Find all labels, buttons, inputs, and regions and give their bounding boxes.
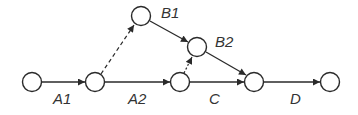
edge-dummy-n1-n2 <box>101 25 134 74</box>
node-n1 <box>86 73 105 92</box>
node-n3 <box>171 73 190 92</box>
edge-b2 <box>206 52 246 75</box>
label-d: D <box>290 91 301 106</box>
label-c: C <box>209 91 220 106</box>
label-a1: A1 <box>53 91 71 106</box>
label-b2: B2 <box>215 34 233 49</box>
node-n5 <box>245 73 264 92</box>
node-n4 <box>188 38 207 57</box>
edge-b1 <box>150 21 188 42</box>
node-n0 <box>23 73 42 92</box>
label-a2: A2 <box>128 91 146 106</box>
node-n2 <box>132 7 151 26</box>
node-n6 <box>321 73 340 92</box>
edge-dummy-n3-n4 <box>184 57 192 73</box>
label-b1: B1 <box>161 5 179 20</box>
